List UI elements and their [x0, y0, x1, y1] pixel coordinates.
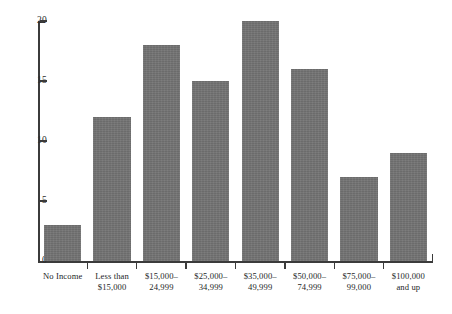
x-axis-end-tick [432, 254, 434, 262]
x-axis-tick-mark [235, 262, 236, 269]
x-axis-category-label: $15,000– 24,999 [137, 271, 186, 292]
y-axis-tick-mark [40, 20, 47, 22]
x-axis-category-label: Less than $15,000 [87, 271, 136, 292]
bar-chart-figure: 05101520 No IncomeLess than $15,000$15,0… [0, 0, 452, 314]
plot-area: 05101520 No IncomeLess than $15,000$15,0… [0, 0, 452, 314]
x-axis-tick-mark [185, 262, 186, 269]
x-axis-tick-mark [383, 262, 384, 269]
y-axis-tick-mark [40, 80, 47, 82]
x-axis-category-label: $50,000– 74,999 [285, 271, 334, 292]
bar [192, 81, 229, 261]
x-axis-category-label: $25,000– 34,999 [186, 271, 235, 292]
x-axis-tick-mark [136, 262, 137, 269]
x-axis-category-label: $75,000– 99,000 [334, 271, 383, 292]
x-axis-category-label: No Income [38, 271, 87, 282]
x-axis-category-label: $100,000 and up [384, 271, 433, 292]
y-axis-tick-mark [40, 200, 47, 202]
bar [340, 177, 377, 261]
bar [390, 153, 427, 261]
bar [143, 45, 180, 261]
bar [93, 117, 130, 261]
y-axis-tick-mark [40, 140, 47, 142]
x-axis-tick-mark [334, 262, 335, 269]
bar [291, 69, 328, 261]
bar [44, 225, 81, 261]
x-axis-tick-mark [284, 262, 285, 269]
bar [242, 21, 279, 261]
x-axis-category-label: $35,000– 49,999 [236, 271, 285, 292]
x-axis-tick-mark [87, 262, 88, 269]
